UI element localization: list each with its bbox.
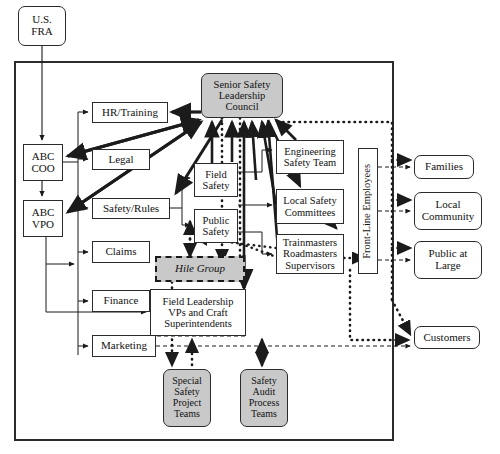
node-field-leadership-label: Field Leadership VPs and Craft Superinte… — [153, 296, 243, 330]
node-customers-label: Customers — [417, 332, 477, 344]
node-families-label: Families — [417, 161, 471, 173]
node-field-safety[interactable]: Field Safety — [194, 163, 238, 197]
node-customers[interactable]: Customers — [414, 326, 480, 349]
node-us-fra-label: U.S. FRA — [21, 14, 63, 38]
node-finance[interactable]: Finance — [92, 290, 150, 312]
diagram-canvas: U.S. FRA ABC COO ABC VPO HR/Training Leg… — [0, 0, 500, 454]
node-eng-safety-team-label: Engineering Safety Team — [279, 146, 341, 169]
node-trainmasters-label: Trainmasters Roadmasters Supervisors — [279, 237, 341, 271]
node-local-safety-label: Local Safety Committees — [279, 195, 341, 218]
node-trainmasters-roadmasters-supervisors[interactable]: Trainmasters Roadmasters Supervisors — [276, 234, 344, 274]
node-finance-label: Finance — [95, 295, 147, 307]
node-front-line-employees[interactable]: Front-Line Employees — [358, 148, 378, 274]
node-legal-label: Legal — [95, 154, 147, 166]
node-us-fra[interactable]: U.S. FRA — [18, 6, 66, 46]
node-claims-label: Claims — [95, 246, 147, 258]
node-senior-safety-leadership-council[interactable]: Senior Safety Leadership Council — [201, 73, 283, 118]
node-marketing-label: Marketing — [95, 340, 153, 352]
node-safety-rules[interactable]: Safety/Rules — [92, 198, 170, 219]
node-abc-vpo[interactable]: ABC VPO — [23, 200, 63, 237]
node-local-community[interactable]: Local Community — [414, 192, 482, 230]
node-abc-vpo-label: ABC VPO — [26, 207, 60, 231]
node-special-teams-label: Special Safety Project Teams — [166, 376, 208, 419]
node-field-leadership[interactable]: Field Leadership VPs and Craft Superinte… — [150, 289, 246, 336]
node-special-safety-project-teams[interactable]: Special Safety Project Teams — [163, 369, 211, 427]
node-audit-teams-label: Safety Audit Process Teams — [243, 376, 285, 419]
node-legal[interactable]: Legal — [92, 149, 150, 170]
node-sslc-label: Senior Safety Leadership Council — [204, 79, 280, 113]
node-engineering-safety-team[interactable]: Engineering Safety Team — [276, 140, 344, 174]
node-hile-group-label: Hile Group — [159, 263, 241, 275]
node-families[interactable]: Families — [414, 155, 474, 179]
node-field-safety-label: Field Safety — [197, 169, 235, 192]
node-safety-audit-process-teams[interactable]: Safety Audit Process Teams — [240, 369, 288, 427]
node-hr-training[interactable]: HR/Training — [92, 102, 168, 123]
node-hr-training-label: HR/Training — [95, 107, 165, 119]
node-local-safety-committees[interactable]: Local Safety Committees — [276, 189, 344, 224]
node-marketing[interactable]: Marketing — [92, 335, 156, 357]
node-public-at-large[interactable]: Public at Large — [414, 241, 482, 279]
node-abc-coo[interactable]: ABC COO — [23, 144, 63, 181]
node-safety-rules-label: Safety/Rules — [95, 203, 167, 215]
node-public-at-large-label: Public at Large — [417, 248, 479, 272]
node-hile-group[interactable]: Hile Group — [155, 256, 245, 282]
node-local-community-label: Local Community — [417, 199, 479, 223]
node-abc-coo-label: ABC COO — [26, 151, 60, 175]
node-public-safety-label: Public Safety — [197, 215, 235, 238]
node-claims[interactable]: Claims — [92, 241, 150, 263]
node-public-safety[interactable]: Public Safety — [194, 209, 238, 243]
node-front-line-employees-label: Front-Line Employees — [361, 164, 375, 259]
